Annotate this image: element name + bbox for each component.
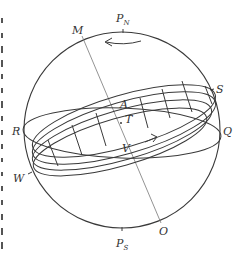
label-V: V: [122, 142, 131, 155]
point-T: [120, 122, 122, 124]
celestial-sphere-diagram: PN PS M O S Q R W A T V: [0, 0, 243, 260]
rotation-arrow-icon: [105, 38, 141, 46]
motion-arrow-icon: [145, 134, 157, 142]
ecliptic-band: [26, 70, 223, 190]
label-O: O: [159, 225, 168, 238]
label-R: R: [11, 125, 20, 138]
label-A: A: [119, 98, 128, 111]
axis-line-MO: [82, 36, 161, 223]
label-south-pole: PS: [115, 237, 128, 252]
cropped-text-edge: [1, 18, 3, 249]
label-S: S: [216, 83, 224, 96]
label-M: M: [71, 24, 84, 37]
label-Q: Q: [223, 125, 232, 138]
label-north-pole: PN: [115, 12, 130, 27]
W-tick: [28, 172, 32, 174]
label-T: T: [125, 113, 134, 126]
label-W: W: [13, 172, 26, 185]
